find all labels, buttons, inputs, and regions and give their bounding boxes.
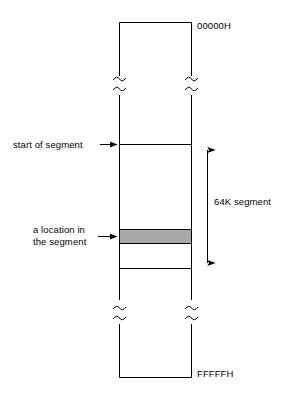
break-mark-lower-right [185,306,198,320]
break-mark-lower-left [113,306,126,320]
break-mark-upper-left [113,77,126,91]
memory-column-top-chunk [120,23,192,77]
diagram-canvas: 00000H FFFFFH start of segment 64K segme… [0,0,288,400]
a-location-label-line2: the segment [33,236,86,247]
break-mark-upper-right [185,77,198,91]
bottom-address-label: FFFFFH [197,368,233,380]
top-address-label: 00000H [197,20,231,32]
highlighted-location-band [120,230,192,244]
a-location-label: a location inthe segment [33,224,86,247]
memory-column-middle-chunk [120,95,192,300]
segment-size-label: 64K segment [214,196,271,208]
start-of-segment-label: start of segment [13,139,83,151]
a-location-label-line1: a location in [33,224,85,235]
memory-column-bottom-chunk [120,324,192,378]
